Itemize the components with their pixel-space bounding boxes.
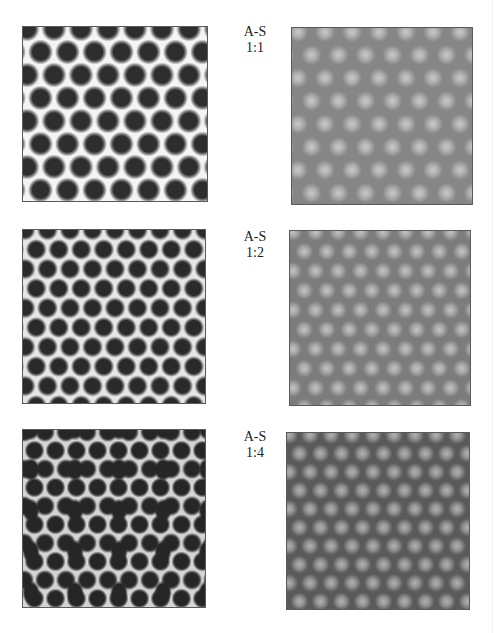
pattern-panel-1-1-left bbox=[22, 26, 208, 202]
pattern-panel-1-1-right bbox=[291, 27, 473, 205]
label-line-ratio: 1:1 bbox=[225, 40, 285, 56]
pattern-panel-1-2-right bbox=[289, 230, 471, 406]
label-line-ratio: 1:2 bbox=[225, 245, 285, 261]
label-line-composition: A-S bbox=[225, 24, 285, 40]
row-label-1-1: A-S 1:1 bbox=[225, 24, 285, 56]
pattern-panel-1-2-left bbox=[22, 229, 206, 404]
label-line-composition: A-S bbox=[225, 229, 285, 245]
page-edge-line bbox=[492, 0, 493, 633]
pattern-panel-1-4-left bbox=[22, 429, 206, 608]
row-label-1-2: A-S 1:2 bbox=[225, 229, 285, 261]
pattern-panel-1-4-right bbox=[286, 432, 470, 610]
row-label-1-4: A-S 1:4 bbox=[225, 429, 285, 461]
label-line-composition: A-S bbox=[225, 429, 285, 445]
label-line-ratio: 1:4 bbox=[225, 445, 285, 461]
